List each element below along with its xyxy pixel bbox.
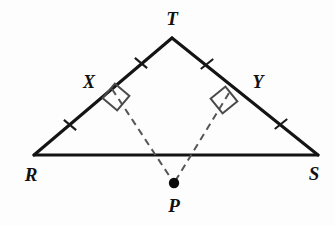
label-S: S bbox=[309, 163, 320, 184]
geometry-canvas: T R S X Y P bbox=[0, 0, 335, 225]
label-X: X bbox=[82, 72, 96, 92]
geometry-figure: T R S X Y P bbox=[0, 0, 335, 225]
label-R: R bbox=[24, 164, 38, 185]
segment-YP bbox=[174, 93, 229, 183]
congruence-ticks bbox=[64, 58, 287, 130]
right-angle-markers bbox=[103, 84, 238, 114]
right-angle-X-icon bbox=[103, 84, 130, 111]
triangle-sides bbox=[34, 38, 318, 155]
segment-TS bbox=[172, 38, 318, 155]
label-P: P bbox=[167, 195, 180, 216]
point-P-dot bbox=[169, 178, 179, 188]
label-T: T bbox=[166, 8, 179, 29]
right-angle-Y-icon bbox=[211, 87, 238, 114]
perpendicular-segments bbox=[112, 89, 229, 183]
label-Y: Y bbox=[253, 72, 266, 92]
segment-XP bbox=[112, 89, 174, 183]
